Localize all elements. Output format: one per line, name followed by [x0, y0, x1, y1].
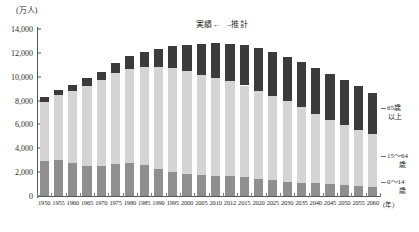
callout-0-to-14: 0～14 歳: [381, 178, 406, 195]
x-axis-tick-label: 2050: [338, 199, 350, 206]
bar-segment: [154, 169, 163, 196]
bar-segment: [140, 67, 149, 165]
x-axis-tick-label: 1955: [52, 199, 64, 206]
bar-column: [225, 29, 234, 196]
bar-column: [197, 29, 206, 196]
x-axis-tick-mark: [51, 193, 52, 197]
bar-segment: [197, 175, 206, 196]
bar-column: [82, 29, 91, 196]
bar-segment: [211, 176, 220, 196]
y-axis-unit-label: (万人): [16, 4, 37, 15]
bar-segment: [154, 49, 163, 67]
bar-segment: [68, 85, 77, 91]
x-axis-tick-label: 2012: [224, 199, 236, 206]
bar-segment: [340, 125, 349, 185]
bar-segment: [254, 48, 263, 91]
bar-segment: [111, 164, 120, 196]
x-axis-tick-label: 2010: [210, 199, 222, 206]
bar-segment: [125, 163, 134, 196]
bar-column: [54, 29, 63, 196]
bar-segment: [97, 80, 106, 166]
bar-segment: [254, 179, 263, 196]
y-axis-tick-label: 2,000: [15, 168, 37, 177]
bar-segment: [82, 166, 91, 196]
x-axis-tick-label: 1985: [138, 199, 150, 206]
bar-segment: [40, 161, 49, 196]
phase-legend: 実績← →推計: [196, 18, 248, 29]
x-axis-tick-mark: [323, 193, 324, 197]
bar-segment: [283, 57, 292, 101]
x-axis-tick-label: 2005: [195, 199, 207, 206]
bar-segment: [297, 107, 306, 183]
bar-segment: [182, 71, 191, 174]
bar-segment: [340, 80, 349, 125]
x-axis-unit-label: (年): [383, 199, 394, 209]
callout-0-to-14-line2: 歳: [381, 187, 406, 196]
callout-65-and-over-line2: 以上: [381, 113, 402, 122]
x-axis-tick-mark: [166, 193, 167, 197]
x-axis-tick-label: 2030: [281, 199, 293, 206]
bar-segment: [197, 44, 206, 75]
bar-segment: [268, 96, 277, 181]
bar-column: [182, 29, 191, 196]
bar-segment: [140, 165, 149, 196]
x-axis-tick-label: 2000: [181, 199, 193, 206]
bar-segment: [68, 91, 77, 163]
y-axis-tick-label: 6,000: [15, 120, 37, 129]
callout-15-to-64-line1: 15～64: [387, 152, 408, 161]
bar-segment: [82, 86, 91, 166]
bar-segment: [125, 56, 134, 69]
bar-column: [140, 29, 149, 196]
population-stacked-bar-chart: (万人) 14,00012,00010,0008,0006,0004,0002,…: [0, 0, 419, 232]
bar-segment: [211, 78, 220, 175]
x-axis-tick-group: 1950195519601965197019751980198519901995…: [37, 197, 380, 209]
bar-segment: [283, 182, 292, 196]
bar-segment: [225, 176, 234, 196]
bar-segment: [311, 183, 320, 196]
bar-segment: [240, 177, 249, 196]
bar-column: [283, 29, 292, 196]
x-axis-tick-label: 1960: [67, 199, 79, 206]
x-axis-tick-label: 2040: [310, 199, 322, 206]
x-axis-tick-mark: [94, 193, 95, 197]
bar-segment: [311, 68, 320, 114]
callout-leader-line: [381, 156, 386, 157]
bar-segment: [325, 74, 334, 120]
bar-segment: [283, 101, 292, 182]
bar-segment: [325, 184, 334, 196]
callout-15-to-64-line2: 歳: [381, 161, 408, 170]
x-axis-tick-mark: [151, 193, 152, 197]
x-axis-tick-mark: [280, 193, 281, 197]
bar-segment: [40, 97, 49, 102]
bar-column: [325, 29, 334, 196]
bar-segment: [311, 114, 320, 183]
bar-segment: [268, 180, 277, 196]
bar-segment: [340, 185, 349, 196]
y-axis-tick-label: 10,000: [11, 72, 37, 81]
bar-segment: [168, 68, 177, 172]
x-axis-tick-mark: [37, 193, 38, 197]
bar-segment: [368, 93, 377, 134]
bar-column: [254, 29, 263, 196]
x-axis-tick-label: 2025: [267, 199, 279, 206]
x-axis-tick-mark: [223, 193, 224, 197]
callout-65-and-over-line1: 65歳: [387, 104, 401, 113]
bar-segment: [82, 78, 91, 85]
x-axis-tick-label: 2045: [324, 199, 336, 206]
x-axis-tick-label: 1965: [81, 199, 93, 206]
bar-column: [297, 29, 306, 196]
callout-65-and-over: 65歳 以上: [381, 104, 402, 121]
x-axis-tick-label: 2015: [238, 199, 250, 206]
phase-legend-estimate-label: 推計: [231, 20, 248, 29]
bar-segment: [68, 163, 77, 196]
x-axis-tick-label: 2055: [352, 199, 364, 206]
bar-segment: [354, 86, 363, 129]
x-axis-tick-mark: [237, 193, 238, 197]
bar-segment: [368, 187, 377, 196]
bar-segment: [40, 102, 49, 161]
x-axis-tick-mark: [123, 193, 124, 197]
x-axis-tick-label: 1980: [124, 199, 136, 206]
bar-column: [168, 29, 177, 196]
x-axis-tick-label: 1995: [167, 199, 179, 206]
bar-segment: [368, 134, 377, 187]
